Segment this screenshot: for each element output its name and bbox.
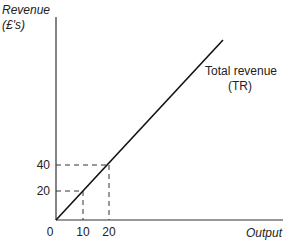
total-revenue-line [56, 40, 223, 220]
series-label-line2: (TR) [228, 79, 252, 93]
y-tick-20: 20 [37, 184, 51, 198]
x-tick-0: 0 [47, 225, 54, 239]
y-tick-40: 40 [37, 158, 51, 172]
tr-chart: Revenue (£'s) 40 20 0 10 20 Output Total… [0, 0, 296, 248]
x-tick-20: 20 [102, 225, 116, 239]
x-tick-10: 10 [76, 225, 90, 239]
y-axis-label-line1: Revenue [2, 3, 50, 17]
x-axis-label: Output [246, 226, 283, 240]
y-axis-label-line2: (£'s) [2, 18, 25, 32]
series-label-line1: Total revenue [205, 64, 277, 78]
